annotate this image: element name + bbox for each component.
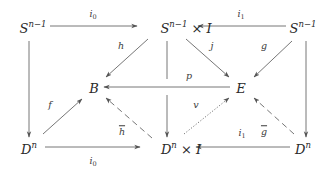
label-v: v: [193, 100, 198, 110]
node-sup: n−1: [28, 19, 46, 29]
node-base: D: [295, 142, 305, 157]
node-base: D: [21, 142, 31, 157]
node-bottom-left-disk: Dn: [21, 141, 37, 156]
node-base: S: [160, 21, 169, 36]
label-g: g: [261, 41, 267, 51]
label-p: p: [186, 71, 192, 81]
node-top-right-sphere: Sn−1: [290, 20, 317, 35]
label-base: h: [119, 126, 125, 137]
node-sup: n: [31, 140, 36, 150]
arrow-h: [106, 39, 148, 77]
label-f: f: [48, 100, 52, 110]
node-base: E: [236, 81, 246, 96]
arrow-g: [254, 41, 292, 77]
arrow-j: [186, 39, 229, 77]
label-h: h: [118, 41, 124, 51]
node-sup: n: [305, 140, 310, 150]
node-bottom-right-disk: Dn: [295, 141, 311, 156]
arrow-h-bar: [106, 98, 152, 138]
node-base: S: [20, 21, 29, 36]
commutative-diagram: Sn−1 Sn−1 × I Sn−1 B E Dn Dn × I Dn i0 i…: [0, 0, 334, 172]
label-i0-top: i0: [89, 9, 96, 21]
label-i1-top: i1: [237, 9, 244, 21]
label-sub: 0: [92, 13, 96, 21]
node-base-space-b: B: [89, 82, 99, 95]
node-top-center-cylinder: Sn−1 × I: [160, 20, 211, 35]
node-total-space-e: E: [236, 82, 246, 95]
node-top-left-sphere: Sn−1: [20, 20, 47, 35]
label-i0-bottom: i0: [89, 156, 96, 168]
node-rest: × I: [187, 21, 211, 36]
label-j: j: [211, 41, 214, 51]
node-base: S: [290, 21, 299, 36]
node-sup: n−1: [169, 19, 187, 29]
node-base: D: [161, 142, 171, 157]
label-sub: 1: [240, 13, 244, 21]
arrow-v: [184, 98, 229, 134]
label-sub: 0: [92, 160, 96, 168]
node-base: B: [89, 81, 99, 96]
label-i1-bottom: i1: [238, 128, 245, 140]
label-h-bar: h: [119, 127, 125, 137]
label-g-bar: g: [261, 127, 267, 137]
label-sub: 1: [241, 132, 245, 140]
node-sup: n−1: [298, 19, 316, 29]
label-base: g: [261, 126, 267, 137]
node-bottom-center-cylinder: Dn × I: [161, 141, 201, 156]
node-rest: × I: [177, 142, 201, 157]
